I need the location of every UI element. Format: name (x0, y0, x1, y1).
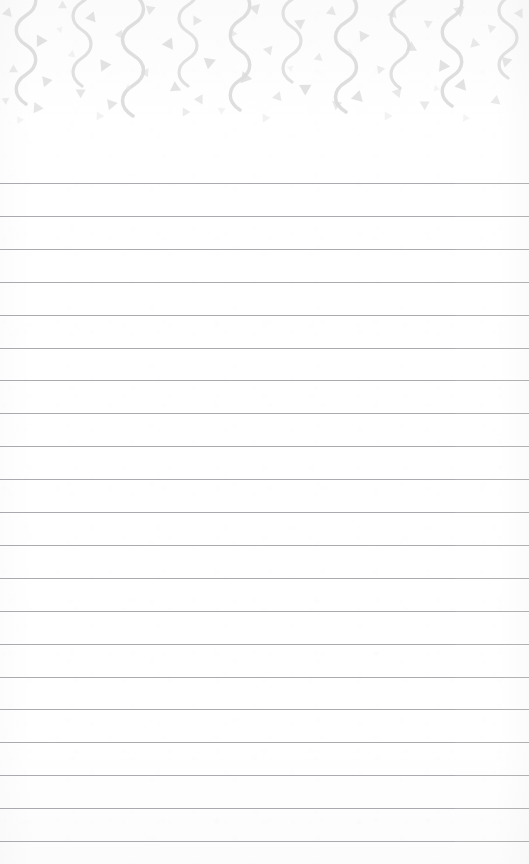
notepad-page (0, 0, 529, 864)
page-body-text (0, 132, 1, 133)
writing-area[interactable] (0, 132, 529, 864)
